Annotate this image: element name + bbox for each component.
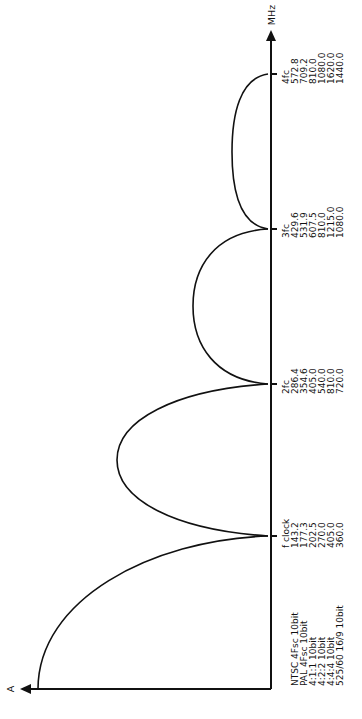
column-3fc: 3fc 429.6 531.9 607.5 810.0 1215.0 1080.… <box>281 206 345 238</box>
main-lobe <box>38 536 268 689</box>
column-value: 1080.0 <box>335 206 345 238</box>
x-axis-label: MHz <box>266 5 277 25</box>
column-value: 720.0 <box>335 368 345 394</box>
amplitude-arrow-icon <box>20 684 31 694</box>
second-lobe <box>117 384 268 536</box>
fourth-lobe <box>232 74 268 229</box>
column-value: 360.0 <box>335 522 345 548</box>
y-axis-label: A <box>5 685 16 692</box>
column-4fc: 4fc 572.8 709.2 810.0 1080.0 1620.0 1440… <box>281 52 345 84</box>
column-value: 1440.0 <box>335 52 345 84</box>
third-lobe <box>193 229 268 384</box>
column-fclock: f clock 143.2 177.3 202.5 270.0 405.0 36… <box>281 518 345 548</box>
column-2fc: 2fc 286.4 354.6 405.0 540.0 810.0 720.0 <box>281 368 345 394</box>
sinc-spectrum-diagram: A MHz NTSC 4Fsc 10bit PAL 4Fsc 10bit 4:1… <box>0 0 362 719</box>
row-labels: NTSC 4Fsc 10bit PAL 4Fsc 10bit 4:1:1 10b… <box>290 605 345 686</box>
row-label: 525/60 16/9 10bit <box>335 605 345 686</box>
frequency-arrow-icon <box>266 30 276 41</box>
